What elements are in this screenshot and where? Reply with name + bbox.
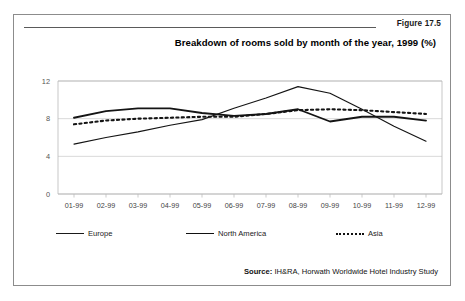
figure-frame: Figure 17.5 Breakdown of rooms sold by m… bbox=[13, 14, 451, 286]
svg-text:04-99: 04-99 bbox=[161, 201, 179, 210]
x-axis-tick-marks bbox=[74, 194, 426, 198]
legend-label-europe: Europe bbox=[88, 229, 113, 238]
legend-item-europe[interactable]: Europe bbox=[56, 229, 113, 238]
plot-border bbox=[58, 81, 442, 194]
svg-text:03-99: 03-99 bbox=[129, 201, 147, 210]
svg-text:12: 12 bbox=[42, 77, 50, 86]
line-chart-svg: 04812 01-9902-9903-9904-9905-9906-9907-9… bbox=[14, 15, 452, 287]
legend-swatch-line-icon bbox=[186, 230, 214, 237]
svg-text:06-99: 06-99 bbox=[225, 201, 243, 210]
gridlines bbox=[58, 81, 442, 194]
chart-plot-area: 04812 01-9902-9903-9904-9905-9906-9907-9… bbox=[14, 15, 452, 287]
y-axis-tick-labels: 04812 bbox=[42, 77, 50, 199]
svg-text:11-99: 11-99 bbox=[385, 201, 403, 210]
legend-item-asia[interactable]: Asia bbox=[336, 229, 383, 238]
svg-text:4: 4 bbox=[46, 152, 50, 161]
source-prefix: Source: bbox=[244, 267, 272, 276]
source-text: IH&RA, Horwath Worldwide Hotel Industry … bbox=[274, 267, 438, 276]
legend-item-north-america[interactable]: North America bbox=[186, 229, 266, 238]
legend-swatch-dotted-icon bbox=[336, 230, 364, 237]
legend-label-asia: Asia bbox=[368, 229, 383, 238]
source-note: Source: IH&RA, Horwath Worldwide Hotel I… bbox=[244, 267, 438, 276]
svg-text:10-99: 10-99 bbox=[353, 201, 371, 210]
svg-text:0: 0 bbox=[46, 190, 50, 199]
svg-text:05-99: 05-99 bbox=[193, 201, 211, 210]
svg-text:01-99: 01-99 bbox=[65, 201, 83, 210]
svg-text:02-99: 02-99 bbox=[97, 201, 115, 210]
svg-text:07-99: 07-99 bbox=[257, 201, 275, 210]
chart-legend: Europe North America Asia bbox=[14, 229, 450, 245]
legend-label-north-america: North America bbox=[218, 229, 266, 238]
svg-text:8: 8 bbox=[46, 114, 50, 123]
legend-swatch-line-icon bbox=[56, 230, 84, 237]
svg-text:08-99: 08-99 bbox=[289, 201, 307, 210]
data-series-lines bbox=[74, 87, 426, 144]
svg-text:09-99: 09-99 bbox=[321, 201, 339, 210]
x-axis-tick-labels: 01-9902-9903-9904-9905-9906-9907-9908-99… bbox=[65, 201, 435, 210]
svg-text:12-99: 12-99 bbox=[417, 201, 435, 210]
